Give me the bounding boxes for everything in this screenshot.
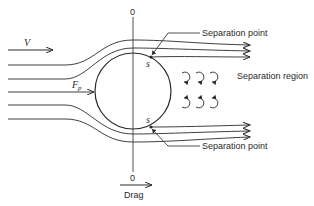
leader-bottom — [152, 129, 200, 146]
upper-streamlines — [8, 40, 250, 79]
separation-region-label: Separation region — [237, 71, 308, 81]
drag-label: Drag — [124, 190, 144, 200]
axis-top-zero: 0 — [130, 7, 135, 17]
velocity-label: V — [24, 37, 32, 48]
separation-eddies — [182, 72, 218, 108]
separation-point-top-label: Separation point — [202, 28, 268, 38]
lower-streamlines — [8, 105, 250, 142]
axis-bottom-zero: 0 — [130, 173, 135, 183]
leader-top — [152, 33, 200, 55]
pressure-force-label: Fp — [71, 79, 82, 92]
separation-point-bottom-label: Separation point — [202, 141, 268, 151]
flow-separation-diagram: 0 0 V Fp s s Separation point Separation… — [0, 0, 314, 206]
sep-marker-bottom: s — [146, 114, 150, 125]
separation-point-bottom-marker — [149, 125, 152, 128]
sep-marker-top: s — [146, 58, 150, 69]
